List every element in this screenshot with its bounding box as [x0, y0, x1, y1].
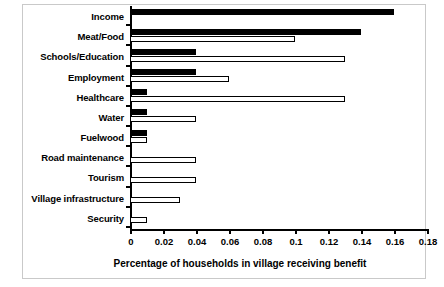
x-axis-tick: [328, 229, 330, 234]
x-axis-tick-label: 0.06: [221, 236, 240, 247]
x-axis-tick: [262, 229, 264, 234]
x-axis-tick-label: 0.18: [419, 236, 438, 247]
category-label: Healthcare: [76, 91, 124, 102]
x-axis-tick: [427, 229, 429, 234]
x-axis-tick: [196, 229, 198, 234]
x-axis-title: Percentage of households in village rece…: [0, 258, 444, 269]
category-label: Schools/Education: [40, 51, 124, 62]
bar-black: [130, 89, 147, 95]
category-label: Employment: [68, 71, 124, 82]
bar-white: [130, 36, 295, 42]
category-label: Meat/Food: [77, 31, 124, 42]
bar-black: [130, 9, 394, 15]
chart-category-row: Security: [130, 208, 427, 228]
bar-white: [130, 197, 180, 203]
category-tick: [126, 226, 130, 228]
bar-black: [130, 109, 147, 115]
bar-white: [130, 217, 147, 223]
value-axis-line: [130, 229, 428, 231]
chart-category-row: Fuelwood: [130, 127, 427, 147]
x-axis-tick-label: 0.16: [386, 236, 405, 247]
x-axis-tick-label: 0.14: [353, 236, 372, 247]
x-axis-tick: [394, 229, 396, 234]
chart-category-row: Employment: [130, 67, 427, 87]
x-axis-tick: [130, 229, 132, 234]
plot-area: IncomeMeat/FoodSchools/EducationEmployme…: [130, 6, 427, 228]
chart-category-row: Water: [130, 107, 427, 127]
bar-black: [130, 69, 196, 75]
x-axis-tick-label: 0.08: [254, 236, 273, 247]
bar-black: [130, 49, 196, 55]
x-axis-tick-label: 0: [128, 236, 133, 247]
chart-category-row: Road maintenance: [130, 147, 427, 167]
x-axis-tick: [229, 229, 231, 234]
x-axis-tick-label: 0.04: [188, 236, 207, 247]
x-axis-tick-label: 0.02: [155, 236, 174, 247]
category-label: Water: [98, 111, 124, 122]
category-label: Tourism: [88, 172, 124, 183]
bar-black: [130, 130, 147, 136]
category-label: Income: [91, 11, 124, 22]
bar-white: [130, 76, 229, 82]
x-axis-tick: [361, 229, 363, 234]
x-axis-tick-label: 0.1: [289, 236, 302, 247]
bar-white: [130, 177, 196, 183]
bar-white: [130, 56, 345, 62]
chart-category-row: Income: [130, 6, 427, 26]
x-axis-title-text: Percentage of households in village rece…: [114, 258, 367, 269]
x-axis-tick-label: 0.12: [320, 236, 339, 247]
bar-white: [130, 137, 147, 143]
chart-category-row: Schools/Education: [130, 46, 427, 66]
chart-category-row: Tourism: [130, 167, 427, 187]
chart-figure: IncomeMeat/FoodSchools/EducationEmployme…: [0, 0, 444, 287]
x-axis-tick: [163, 229, 165, 234]
bar-white: [130, 157, 196, 163]
category-label: Fuelwood: [80, 132, 124, 143]
category-label: Road maintenance: [41, 152, 124, 163]
category-label: Security: [87, 212, 124, 223]
bar-black: [130, 29, 361, 35]
bar-white: [130, 96, 345, 102]
chart-category-row: Meat/Food: [130, 26, 427, 46]
chart-category-row: Village infrastructure: [130, 188, 427, 208]
x-axis-tick: [295, 229, 297, 234]
chart-category-row: Healthcare: [130, 87, 427, 107]
category-label: Village infrastructure: [31, 192, 124, 203]
bar-white: [130, 116, 196, 122]
